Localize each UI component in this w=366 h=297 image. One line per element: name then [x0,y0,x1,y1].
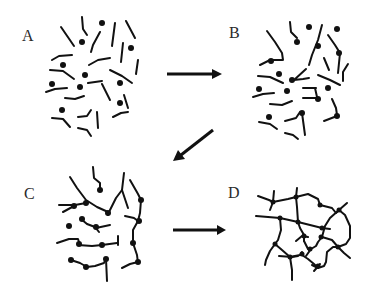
panel-label-a: A [22,27,34,44]
arrow-a-to-b [167,69,222,79]
panel-c-chains [57,167,144,281]
panel-label-c: C [24,185,35,202]
crosslinking-diagram: A B C D [0,0,366,297]
panel-b-chains [253,22,348,139]
arrow-b-to-c [173,130,213,161]
panel-d-network [256,188,350,280]
panel-a-chains [46,17,138,136]
arrow-c-to-d [173,225,226,235]
panel-label-d: D [228,184,240,201]
panel-label-b: B [229,24,240,41]
